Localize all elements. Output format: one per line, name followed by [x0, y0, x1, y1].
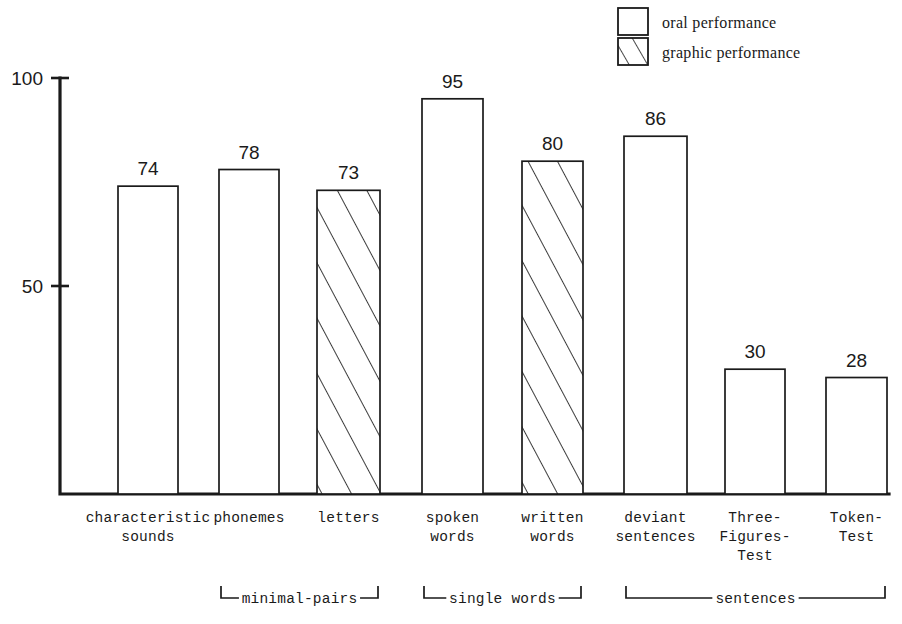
category-label-7: Figures-	[719, 529, 790, 545]
bar-value-label: 95	[442, 71, 463, 92]
category-label-3: letters	[317, 510, 379, 526]
y-axis-tick-label: 100	[11, 68, 43, 89]
bar-8[interactable]	[826, 378, 887, 494]
category-label-2: phonemes	[213, 510, 284, 526]
bar-value-label: 30	[744, 341, 765, 362]
bar-1[interactable]	[118, 186, 178, 494]
group-label: single words	[449, 591, 556, 607]
bar-2[interactable]	[219, 170, 279, 494]
bar-value-label: 74	[137, 158, 159, 179]
category-labels-group: characteristicsoundsphonemeslettersspoke…	[86, 510, 884, 564]
category-label-5: words	[530, 529, 575, 545]
group-bracket-right	[360, 586, 378, 598]
group-bracket-left	[424, 586, 446, 598]
group-bracket-right	[799, 586, 885, 598]
category-label-8: Token-	[830, 510, 883, 526]
bar-6[interactable]	[624, 136, 687, 494]
category-label-1: sounds	[121, 529, 174, 545]
bar-value-label: 86	[645, 108, 666, 129]
category-label-5: written	[521, 510, 583, 526]
bar-chart: 10050 7478739580863028 characteristicsou…	[0, 0, 902, 624]
category-label-7: Three-	[728, 510, 781, 526]
bar-value-label: 73	[338, 162, 359, 183]
legend-swatch-outline[interactable]	[618, 8, 648, 35]
category-label-6: sentences	[615, 529, 695, 545]
bar-7[interactable]	[725, 369, 785, 494]
bars-group: 7478739580863028	[118, 71, 887, 494]
chart-page: 10050 7478739580863028 characteristicsou…	[0, 0, 902, 624]
legend-label: graphic performance	[662, 44, 801, 62]
group-label: sentences	[715, 591, 795, 607]
group-brackets: minimal-pairssingle wordssentences	[221, 586, 885, 607]
group-bracket-left	[221, 586, 239, 598]
bar-3[interactable]	[317, 190, 380, 494]
y-axis-tick-label: 50	[22, 276, 43, 297]
group-bracket-right	[559, 586, 581, 598]
category-label-4: spoken	[426, 510, 479, 526]
bar-value-label: 28	[846, 350, 867, 371]
category-label-1: characteristic	[86, 510, 211, 526]
legend-label: oral performance	[662, 14, 777, 32]
bar-value-label: 80	[542, 133, 563, 154]
category-label-8: Test	[839, 529, 875, 545]
group-bracket-left	[626, 586, 712, 598]
category-label-7: Test	[737, 548, 773, 564]
bar-value-label: 78	[238, 142, 259, 163]
legend: oral performancegraphic performance	[618, 8, 801, 65]
category-label-4: words	[430, 529, 475, 545]
group-label: minimal-pairs	[242, 591, 358, 607]
category-label-6: deviant	[624, 510, 686, 526]
bar-4[interactable]	[422, 99, 483, 494]
legend-swatch-hatched[interactable]	[618, 38, 648, 65]
bar-5[interactable]	[522, 161, 583, 494]
